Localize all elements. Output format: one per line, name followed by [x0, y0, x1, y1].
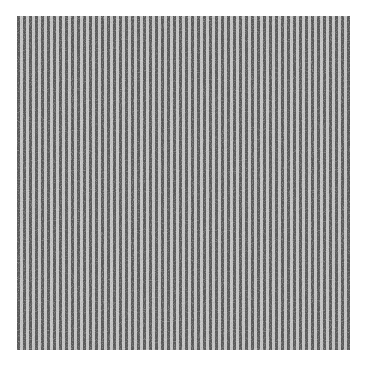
striped-noise-pattern: [17, 16, 350, 350]
grating-texture: [17, 16, 350, 350]
image-canvas: Noisy vertical grating texture (stripes)…: [0, 0, 367, 370]
